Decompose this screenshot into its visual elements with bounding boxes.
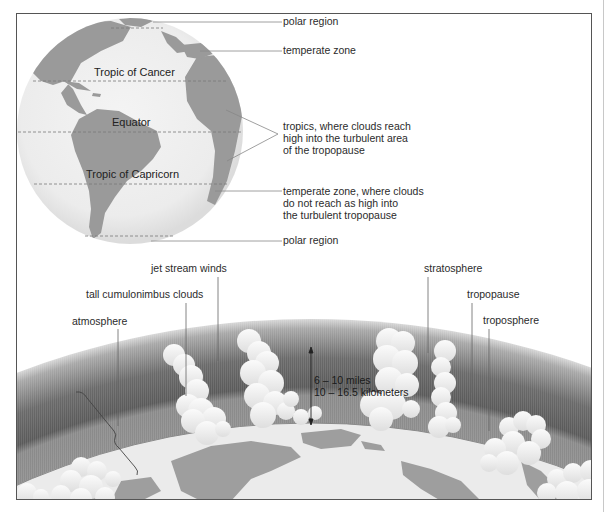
figure-frame <box>16 13 592 500</box>
dimension-kilometers: 10 – 16.5 kilometers <box>314 386 409 399</box>
callout-temperate-south-line3: the turbulent tropopause <box>283 209 397 222</box>
label-equator: Equator <box>112 116 151 129</box>
label-tropopause: tropopause <box>467 288 520 301</box>
label-stratosphere: stratosphere <box>424 262 482 275</box>
callout-temperate-south-line1: temperate zone, where clouds <box>283 185 424 198</box>
dimension-miles: 6 – 10 miles <box>314 374 371 387</box>
callout-tropics-line1: tropics, where clouds reach <box>283 120 411 133</box>
label-atmosphere: atmosphere <box>72 315 127 328</box>
label-jet-stream-winds: jet stream winds <box>151 262 227 275</box>
label-tall-cumulonimbus-clouds: tall cumulonimbus clouds <box>86 288 203 301</box>
callout-temperate-south-line2: do not reach as high into <box>283 197 398 210</box>
callout-temperate-zone-north: temperate zone <box>283 44 356 57</box>
callout-tropics-line3: of the tropopause <box>283 144 365 157</box>
callout-tropics-line2: high into the turbulent area <box>283 132 408 145</box>
callout-polar-region-south: polar region <box>283 234 338 247</box>
globe <box>17 17 282 244</box>
label-tropic-of-capricorn: Tropic of Capricorn <box>86 168 179 181</box>
page-margin-rule <box>603 0 604 512</box>
label-troposphere: troposphere <box>483 314 539 327</box>
illustration <box>17 14 592 500</box>
atmosphere-cross-section <box>17 277 592 500</box>
label-tropic-of-cancer: Tropic of Cancer <box>94 66 175 79</box>
callout-polar-region-north: polar region <box>283 15 338 28</box>
